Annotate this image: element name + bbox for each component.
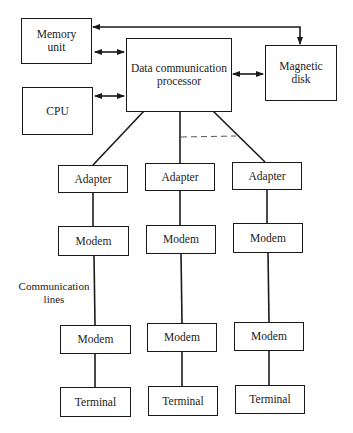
modem-top-box-3: Modem bbox=[233, 223, 303, 253]
modem-label: Modem bbox=[250, 232, 286, 245]
cpu-box: CPU bbox=[22, 87, 93, 135]
adapter-box-1: Adapter bbox=[58, 165, 128, 193]
terminal-box-1: Terminal bbox=[60, 387, 131, 417]
terminal-box-3: Terminal bbox=[235, 385, 305, 414]
terminal-label: Terminal bbox=[162, 395, 203, 408]
adapter-label: Adapter bbox=[248, 170, 285, 183]
modem-bottom-box-2: Modem bbox=[147, 323, 217, 352]
dcp-label-2: processor bbox=[157, 75, 201, 88]
adapter-label: Adapter bbox=[74, 173, 111, 186]
disk-label-2: disk bbox=[291, 73, 310, 86]
disk-label-1: Magnetic bbox=[279, 60, 322, 73]
terminal-label: Terminal bbox=[249, 393, 290, 406]
modem-label: Modem bbox=[251, 330, 287, 343]
comm-lines-label-1: Communication bbox=[16, 280, 92, 293]
memory-unit-label-1: Memory bbox=[37, 28, 77, 41]
adapter-label: Adapter bbox=[161, 171, 198, 184]
modem-label: Modem bbox=[164, 331, 200, 344]
modem-label: Modem bbox=[76, 235, 112, 248]
modem-label: Modem bbox=[163, 233, 199, 246]
terminal-label: Terminal bbox=[75, 396, 116, 409]
modem-top-box-2: Modem bbox=[146, 225, 216, 254]
magnetic-disk-box: Magnetic disk bbox=[265, 45, 337, 101]
adapter-box-2: Adapter bbox=[145, 163, 215, 191]
modem-bottom-box-3: Modem bbox=[234, 322, 304, 351]
modem-top-box-1: Modem bbox=[58, 226, 129, 256]
modem-bottom-box-1: Modem bbox=[60, 325, 131, 354]
modem-label: Modem bbox=[78, 333, 114, 346]
cpu-label: CPU bbox=[46, 105, 68, 118]
memory-unit-label-2: unit bbox=[48, 41, 66, 54]
memory-unit-box: Memory unit bbox=[21, 18, 92, 64]
dcp-label-1: Data communication bbox=[131, 62, 227, 75]
comm-lines-label-2: lines bbox=[16, 293, 92, 306]
terminal-box-2: Terminal bbox=[148, 386, 218, 416]
adapter-box-3: Adapter bbox=[232, 162, 302, 190]
communication-lines-label: Communication lines bbox=[16, 280, 92, 306]
dashed-continuation-line bbox=[181, 136, 236, 137]
data-communication-processor-box: Data communication processor bbox=[126, 38, 232, 112]
